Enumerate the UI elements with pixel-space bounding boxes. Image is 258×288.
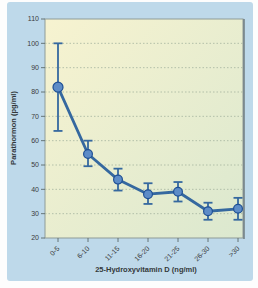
x-tick-label: 26-30: [193, 245, 211, 263]
data-point: [114, 175, 123, 184]
y-tick-label: 30: [31, 210, 39, 217]
y-tick-label: 60: [31, 137, 39, 144]
x-tick-label: 21-25: [163, 245, 181, 263]
y-tick-label: 110: [28, 15, 39, 22]
y-axis-title: Parathormon (pg/ml): [9, 91, 18, 165]
y-tick-label: 20: [31, 234, 39, 241]
x-tick-label: 11-15: [103, 245, 120, 262]
y-tick-label: 100: [27, 40, 39, 47]
y-tick-label: 40: [31, 186, 39, 193]
y-tick-label: 80: [31, 88, 39, 95]
line-chart: 20304050607080901001100-56-1011-1516-202…: [0, 0, 258, 288]
data-point: [204, 207, 213, 216]
x-tick-label: 0-5: [49, 245, 61, 257]
x-tick-label: 16-20: [133, 245, 151, 263]
y-tick-label: 50: [31, 161, 39, 168]
data-point: [53, 82, 63, 92]
data-point: [84, 150, 93, 159]
x-tick-label: >30: [227, 245, 240, 258]
plot-area: [45, 19, 243, 238]
y-tick-label: 90: [31, 64, 39, 71]
data-point: [174, 187, 183, 196]
x-axis-title: 25-Hydroxyvitamin D (ng/ml): [95, 265, 197, 274]
data-point: [144, 190, 153, 199]
data-point: [234, 204, 243, 213]
plot-layer: 20304050607080901001100-56-1011-1516-202…: [27, 15, 244, 262]
y-tick-label: 70: [31, 113, 39, 120]
figure: 20304050607080901001100-56-1011-1516-202…: [0, 0, 258, 288]
x-tick-label: 6-10: [76, 245, 91, 260]
